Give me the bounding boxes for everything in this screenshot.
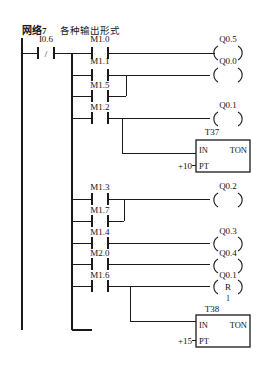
- timer-name-t38: T38: [205, 304, 220, 314]
- coil-q03-left-arc: [214, 237, 218, 251]
- contact-label-m10: M1.0: [90, 34, 110, 44]
- coil-q01-reset-count: 1: [226, 294, 230, 303]
- coil-label-q04: Q0.4: [219, 248, 237, 258]
- timer-t37-type-label: TON: [230, 145, 247, 155]
- coil-q00-right-arc: [238, 68, 242, 82]
- contact-label-m16: M1.6: [90, 270, 110, 280]
- coil-q04-left-arc: [214, 259, 218, 273]
- timer-name-t37: T37: [205, 127, 220, 137]
- coil-q02-right-arc: [238, 193, 242, 207]
- coil-q01a-left-arc: [214, 112, 218, 126]
- timer-t37-preset-value: +10: [178, 161, 193, 171]
- coil-q05-right-arc: [238, 46, 242, 60]
- contact-label-m12: M1.2: [90, 102, 109, 112]
- timer-t37-pt-label: PT: [199, 161, 210, 171]
- coil-label-q02: Q0.2: [219, 181, 237, 191]
- timer-t37-in-label: IN: [199, 145, 208, 155]
- coil-label-q01-reset: Q0.1: [219, 270, 237, 280]
- ladder-diagram-sheet: 网络7 各种输出形式 I0.6 / M1.0 Q0.5 M: [0, 0, 262, 371]
- coil-label-q00: Q0.0: [219, 56, 237, 66]
- timer-t38-type-label: TON: [230, 320, 247, 330]
- contact-label-m11: M1.1: [90, 56, 109, 66]
- contact-label-m15: M1.5: [90, 80, 110, 90]
- contact-label-m13: M1.3: [90, 182, 110, 192]
- coil-q00-left-arc: [214, 68, 218, 82]
- coil-q02-left-arc: [214, 193, 218, 207]
- i06-nc-slash: /: [45, 49, 48, 59]
- contact-label-m20: M2.0: [90, 248, 110, 258]
- coil-q01r-right-arc: [238, 280, 242, 294]
- ladder-canvas: I0.6 / M1.0 Q0.5 M1.1 Q0.0: [0, 0, 262, 371]
- coil-q01r-left-arc: [214, 280, 218, 294]
- timer-t38-pt-label: PT: [199, 336, 210, 346]
- coil-label-q03: Q0.3: [219, 226, 237, 236]
- coil-q04-right-arc: [238, 259, 242, 273]
- contact-label-m14: M1.4: [90, 227, 110, 237]
- contact-label-m17: M1.7: [90, 205, 110, 215]
- coil-q01-reset-symbol: R: [225, 282, 231, 292]
- contact-label-i06: I0.6: [39, 34, 54, 44]
- coil-label-q01-a: Q0.1: [219, 100, 237, 110]
- coil-q01a-right-arc: [238, 112, 242, 126]
- timer-t38-in-label: IN: [199, 320, 208, 330]
- coil-label-q05: Q0.5: [219, 34, 237, 44]
- coil-q03-right-arc: [238, 237, 242, 251]
- timer-t38-preset-value: +15: [178, 336, 193, 346]
